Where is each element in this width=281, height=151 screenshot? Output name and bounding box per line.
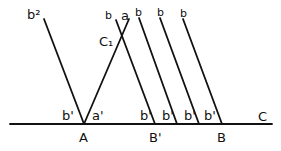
label-b-prime-4: b': [204, 108, 216, 123]
label-a-prime: a': [92, 108, 104, 123]
geometry-diagram: C b² b' a a' b b' b b' b b' b b' C₁ A B'…: [0, 0, 281, 151]
label-b-prime-2: b': [162, 108, 174, 123]
label-b-prime-3: b': [184, 108, 196, 123]
label-b-prime-1: b': [140, 108, 152, 123]
label-b-top-4: b: [180, 7, 187, 20]
label-b-top-2: b: [135, 6, 142, 19]
label-a: a: [121, 8, 129, 23]
diagram-svg: C b² b' a a' b b' b b' b b' b b' C₁ A B'…: [0, 0, 281, 151]
label-b2: b²: [27, 7, 40, 22]
label-C: C: [258, 109, 267, 124]
label-B-prime: B': [149, 130, 162, 145]
label-B: B: [217, 130, 226, 145]
label-C1: C₁: [99, 34, 113, 49]
label-b-top-1: b: [105, 9, 112, 22]
label-b-top-3: b: [157, 6, 164, 19]
label-A: A: [79, 130, 88, 145]
label-b-prime-A: b': [62, 108, 74, 123]
